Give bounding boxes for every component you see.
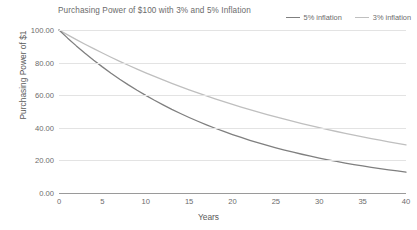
gridline xyxy=(59,63,406,64)
legend-item-3-percent: 3% inflation xyxy=(355,13,411,22)
x-axis-tick-label: 25 xyxy=(272,197,280,206)
x-axis-tick-label: 20 xyxy=(228,197,236,206)
y-axis-tick-label: 80.00 xyxy=(35,58,54,67)
y-axis-title: Purchasing Power of $1 xyxy=(18,5,28,145)
x-axis-tick-label: 30 xyxy=(315,197,323,206)
gridline xyxy=(59,128,406,129)
y-axis-tick-label: 100.00 xyxy=(31,26,54,35)
y-axis-tick-label: 20.00 xyxy=(35,156,54,165)
gridline xyxy=(59,30,406,31)
x-axis-tick-label: 5 xyxy=(100,197,104,206)
x-axis-tick-label: 15 xyxy=(185,197,193,206)
legend-label-5-percent: 5% inflation xyxy=(304,13,342,22)
chart-legend: 5% inflation 3% inflation xyxy=(286,13,411,22)
y-axis-tick-label: 0.00 xyxy=(39,189,54,198)
legend-swatch-3-percent-icon xyxy=(355,17,369,18)
chart-title: Purchasing Power of $100 with 3% and 5% … xyxy=(58,6,251,15)
x-axis-tick-label: 35 xyxy=(358,197,366,206)
x-axis-tick-label: 10 xyxy=(142,197,150,206)
x-axis-tick-label: 40 xyxy=(402,197,410,206)
legend-swatch-5-percent-icon xyxy=(286,17,300,18)
legend-label-3-percent: 3% inflation xyxy=(373,13,411,22)
x-axis-tick-label: 0 xyxy=(57,197,61,206)
chart-container: Purchasing Power of $100 with 3% and 5% … xyxy=(0,0,417,230)
x-axis-title: Years xyxy=(0,212,417,222)
y-axis-tick-label: 60.00 xyxy=(35,91,54,100)
legend-item-5-percent: 5% inflation xyxy=(286,13,342,22)
series-layer xyxy=(59,30,406,193)
gridline xyxy=(59,95,406,96)
y-axis-tick-label: 40.00 xyxy=(35,123,54,132)
x-axis-line xyxy=(59,193,406,194)
series-line-5-inflation xyxy=(59,30,406,172)
plot-area: 0.0020.0040.0060.0080.00100.000510152025… xyxy=(59,30,406,193)
gridline xyxy=(59,160,406,161)
